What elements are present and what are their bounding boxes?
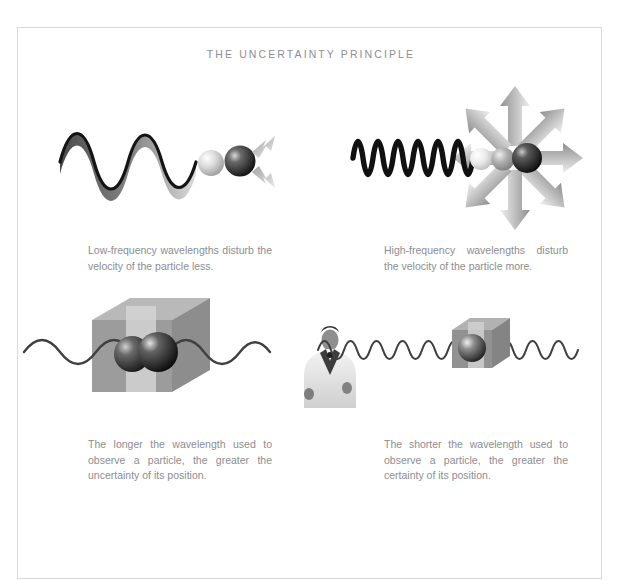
mid-particle: [492, 148, 515, 171]
high-frequency-wave-line: [353, 142, 473, 175]
high-frequency-wave-svg: [345, 88, 585, 228]
light-particle: [198, 150, 224, 176]
small-certainty-box: [452, 318, 510, 368]
low-frequency-figure: [60, 100, 280, 210]
arrow-up-right-icon: [252, 136, 275, 158]
observer-hand-left: [304, 388, 314, 400]
light-particle: [470, 148, 492, 170]
arrow-n-icon: [500, 86, 530, 146]
caption-high-frequency: High-frequency wavelengths disturb the v…: [384, 243, 568, 274]
dark-particle: [225, 146, 256, 177]
arrow-s-icon: [500, 170, 530, 230]
illustration-page: THE UNCERTAINTY PRINCIPLE: [0, 0, 622, 580]
observer-hand-right: [342, 382, 352, 394]
arrow-down-right-icon: [252, 166, 275, 188]
caption-shorter-wavelength: The shorter the wavelength used to obser…: [384, 437, 568, 484]
bottom-faint-text-line: [24, 560, 544, 580]
observation-wave-svg: [18, 290, 602, 410]
dark-particle: [512, 143, 542, 173]
caption-low-frequency: Low-frequency wavelengths disturb the ve…: [88, 243, 272, 274]
page-title: THE UNCERTAINTY PRINCIPLE: [0, 48, 622, 60]
box-particle-right: [138, 332, 178, 372]
low-frequency-wave-svg: [60, 100, 280, 210]
caption-longer-wavelength: The longer the wavelength used to observ…: [88, 437, 272, 484]
high-frequency-figure: [345, 88, 585, 228]
observation-figure: [18, 290, 602, 410]
bottom-faint-text: [24, 560, 544, 580]
small-box-particle: [458, 334, 486, 362]
observer-photo: [300, 324, 358, 410]
